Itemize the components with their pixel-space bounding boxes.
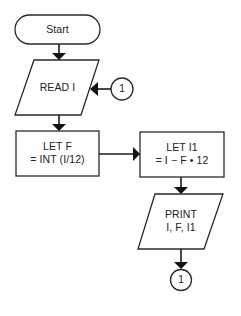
read-label: READ I (20, 81, 95, 94)
connector-out-label: 1 (170, 273, 192, 286)
connector-in-label: 1 (111, 82, 133, 95)
edge-print-to-connector (174, 249, 188, 269)
edge-let-f-to-let-i1 (99, 147, 140, 161)
edge-read-to-let-f (52, 115, 66, 131)
let-i1-label: LET I1 = I − F • 12 (140, 141, 224, 167)
start-label: Start (15, 23, 100, 36)
edge-start-to-read (52, 44, 66, 60)
print-label: PRINT I, F, I1 (142, 208, 220, 234)
edge-let-i1-to-print (174, 177, 188, 194)
let-f-label: LET F = INT (I/12) (16, 140, 99, 166)
